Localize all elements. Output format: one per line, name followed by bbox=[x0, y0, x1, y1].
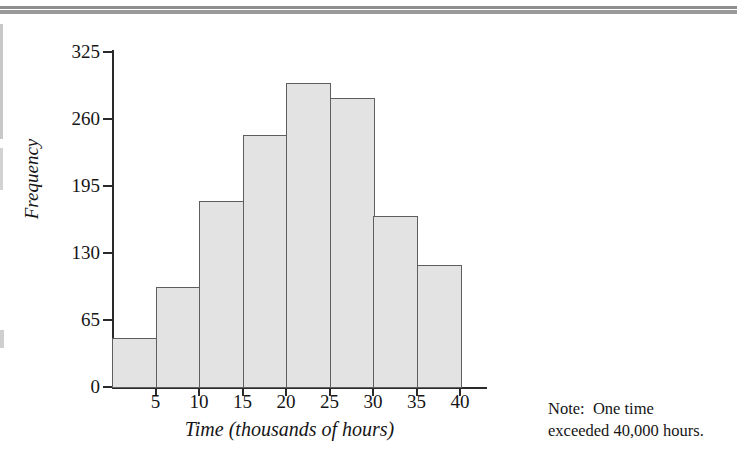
y-axis-tick-label-wrap: 260 bbox=[44, 109, 100, 129]
y-axis-tick-label: 195 bbox=[54, 176, 100, 195]
histogram-bar bbox=[417, 265, 462, 388]
y-axis-tick-label: 0 bbox=[54, 377, 100, 396]
x-axis-title: Time (thousands of hours) bbox=[112, 418, 467, 441]
histogram-bar bbox=[199, 201, 244, 388]
y-axis-tick bbox=[103, 319, 113, 321]
y-axis-tick-label-wrap: 65 bbox=[44, 310, 100, 330]
y-axis-tick-label: 260 bbox=[54, 109, 100, 128]
histogram-figure: 065130195260325 510152025303540 Frequenc… bbox=[0, 0, 737, 466]
histogram-bar bbox=[156, 287, 201, 388]
figure-note-line-2: exceeded 40,000 hours. bbox=[548, 420, 733, 442]
x-axis-tick-label: 25 bbox=[310, 392, 350, 411]
y-axis-tick bbox=[103, 252, 113, 254]
y-axis-tick-label: 65 bbox=[54, 310, 100, 329]
x-axis-tick-label: 5 bbox=[136, 392, 176, 411]
histogram-bar bbox=[330, 98, 375, 388]
y-axis-tick-label-wrap: 325 bbox=[44, 42, 100, 62]
histogram-bar bbox=[112, 338, 157, 389]
histogram-bar bbox=[286, 83, 331, 389]
histogram-bar bbox=[373, 216, 418, 389]
x-axis-tick-label: 15 bbox=[223, 392, 263, 411]
y-axis-tick-label: 325 bbox=[54, 42, 100, 61]
y-axis-tick bbox=[103, 51, 113, 53]
y-axis-title: Frequency bbox=[21, 109, 43, 249]
figure-note: Note: One time exceeded 40,000 hours. bbox=[548, 398, 733, 442]
x-axis-tick-label: 40 bbox=[440, 392, 480, 411]
x-axis-tick-label: 20 bbox=[266, 392, 306, 411]
y-axis-tick-label-wrap: 0 bbox=[44, 377, 100, 397]
figure-note-line-1: Note: One time bbox=[548, 398, 733, 420]
y-axis-tick-label-wrap: 130 bbox=[44, 243, 100, 263]
y-axis-tick bbox=[103, 118, 113, 120]
x-axis-tick-label: 35 bbox=[397, 392, 437, 411]
y-axis-tick-label: 130 bbox=[54, 243, 100, 262]
y-axis-tick bbox=[103, 185, 113, 187]
x-axis-tick-label: 10 bbox=[179, 392, 219, 411]
x-axis-tick-label: 30 bbox=[353, 392, 393, 411]
y-axis-tick-label-wrap: 195 bbox=[44, 176, 100, 196]
histogram-bar bbox=[243, 135, 288, 388]
